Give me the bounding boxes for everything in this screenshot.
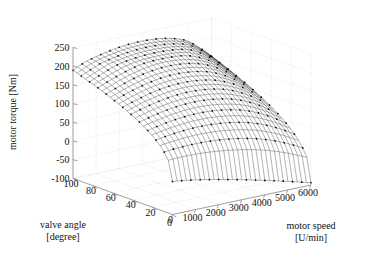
data-point-marker [133, 78, 135, 80]
data-point-marker [188, 63, 190, 65]
data-point-marker [172, 49, 174, 51]
data-point-marker [284, 130, 286, 132]
axis-line [73, 85, 78, 86]
z-axis-title: motor torque [Nm] [7, 74, 18, 150]
data-point-marker [155, 38, 157, 40]
axis-tick-label: 100 [55, 98, 70, 109]
data-point-marker [198, 63, 200, 65]
data-point-marker [227, 68, 229, 70]
data-point-marker [211, 55, 213, 57]
y-axis-title-line2: [degree] [46, 231, 79, 242]
data-point-marker [256, 138, 258, 140]
data-point-marker [187, 81, 189, 83]
data-point-marker [156, 126, 158, 128]
data-point-marker [229, 122, 231, 124]
data-point-marker [147, 130, 149, 132]
axis-tick-label: 5000 [275, 192, 295, 203]
data-point-marker [164, 136, 166, 138]
plot-canvas: -100-50050100150200250100806040200010002… [0, 0, 366, 255]
data-point-marker [218, 179, 220, 181]
data-point-marker [106, 81, 108, 83]
data-point-marker [125, 71, 127, 73]
axis-tick-label: 0 [167, 217, 172, 228]
data-point-marker [163, 50, 165, 52]
data-point-marker [162, 58, 164, 60]
axis-tick-label: 250 [55, 42, 70, 53]
data-point-marker [293, 144, 295, 146]
data-point-marker [172, 181, 174, 183]
axis-tick-label: 3000 [229, 202, 249, 213]
axis-line [73, 48, 78, 49]
axis-tick-label: 60 [106, 192, 116, 203]
data-point-marker [184, 116, 186, 118]
data-point-marker [200, 142, 202, 144]
data-point-marker [249, 102, 251, 104]
data-point-marker [219, 139, 221, 141]
data-point-marker [259, 99, 261, 101]
data-point-marker [107, 69, 109, 71]
data-point-marker [233, 83, 235, 85]
data-point-marker [99, 63, 101, 65]
data-point-marker [205, 79, 207, 81]
axis-line [73, 141, 78, 142]
axis-tick-label: 200 [55, 61, 70, 72]
data-point-marker [122, 106, 124, 108]
data-point-marker [116, 64, 118, 66]
data-point-marker [97, 87, 99, 89]
data-point-marker [269, 104, 271, 106]
data-point-marker [237, 138, 239, 140]
data-point-marker [109, 50, 111, 52]
data-point-marker [91, 58, 93, 60]
axis-tick-label: 150 [55, 80, 70, 91]
data-point-marker [105, 93, 107, 95]
axis-tick-label: 40 [126, 199, 136, 210]
data-point-marker [250, 95, 252, 97]
data-point-marker [98, 75, 100, 77]
data-point-marker [258, 112, 260, 114]
data-point-marker [221, 109, 223, 111]
data-point-marker [100, 54, 102, 56]
data-point-marker [108, 59, 110, 61]
data-point-marker [169, 75, 171, 77]
data-point-marker [176, 94, 178, 96]
axis-tick-label: 1000 [183, 212, 203, 223]
axis-tick-label: 4000 [252, 197, 272, 208]
data-point-marker [183, 39, 185, 41]
axis-tick-label: 50 [60, 117, 70, 128]
axis-line [73, 104, 78, 105]
data-point-marker [190, 49, 192, 51]
data-point-marker [166, 109, 168, 111]
gridline [212, 18, 312, 54]
data-point-marker [182, 43, 184, 45]
data-point-marker [240, 99, 242, 101]
data-point-marker [175, 106, 177, 108]
data-point-marker [192, 43, 194, 45]
data-point-marker [209, 179, 211, 181]
axis-tick-label: 6000 [298, 187, 318, 198]
data-point-marker [301, 181, 303, 183]
data-point-marker [201, 125, 203, 127]
data-point-marker [236, 75, 238, 77]
axis-line [73, 66, 78, 67]
data-point-marker [81, 63, 83, 65]
data-point-marker [127, 52, 129, 54]
data-point-marker [138, 121, 140, 123]
data-point-marker [174, 38, 176, 40]
data-point-marker [131, 101, 133, 103]
data-point-marker [181, 49, 183, 51]
data-point-marker [152, 60, 154, 62]
data-point-marker [277, 113, 279, 115]
data-point-marker [252, 89, 254, 91]
data-point-marker [180, 55, 182, 57]
y-axis-title-line1: valve angle [40, 219, 86, 230]
data-point-marker [135, 57, 137, 59]
data-point-marker [157, 113, 159, 115]
data-point-marker [210, 124, 212, 126]
data-point-marker [128, 44, 130, 46]
data-point-marker [199, 179, 201, 181]
data-point-marker [213, 88, 215, 90]
data-point-marker [206, 71, 208, 73]
data-point-marker [242, 87, 244, 89]
data-point-marker [142, 73, 144, 75]
data-point-marker [145, 47, 147, 49]
